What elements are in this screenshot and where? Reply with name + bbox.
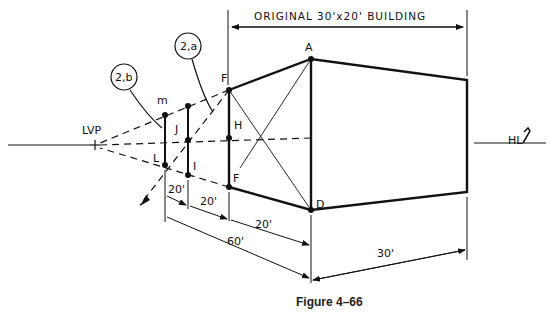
lvp-label: LVP (82, 124, 101, 137)
horizon-line (8, 140, 546, 150)
label-l: L (153, 152, 160, 165)
dim-width: 30' (377, 247, 394, 260)
callout-2b-label: 2,b (115, 71, 132, 84)
hl-mark (523, 128, 530, 143)
callout-2a-label: 2,a (180, 40, 197, 53)
figure-caption: Figure 4–66 (296, 295, 363, 309)
label-f-bottom: F (233, 172, 239, 185)
dim-total: 60' (227, 235, 244, 248)
bottom-dimensions (165, 170, 467, 283)
perspective-drawing: ORIGINAL 30'x20' BUILDING (0, 0, 551, 323)
dim-seg3: 20' (255, 218, 272, 231)
label-f-top: F (221, 72, 227, 85)
label-m: m (157, 94, 168, 107)
original-building-label: ORIGINAL 30'x20' BUILDING (254, 10, 426, 22)
label-j: J (174, 123, 178, 136)
diagonal-lines (229, 59, 311, 210)
label-a: A (305, 41, 313, 54)
label-d: D (316, 198, 324, 211)
building-outline (229, 59, 467, 210)
hl-label: HL (508, 134, 523, 147)
label-i: I (193, 160, 196, 173)
construction-verticals (165, 106, 188, 175)
dim-seg2: 20' (200, 195, 217, 208)
diagonal-arrowhead (140, 195, 150, 206)
dim-seg1: 20' (168, 183, 185, 196)
label-h: H (234, 119, 242, 132)
